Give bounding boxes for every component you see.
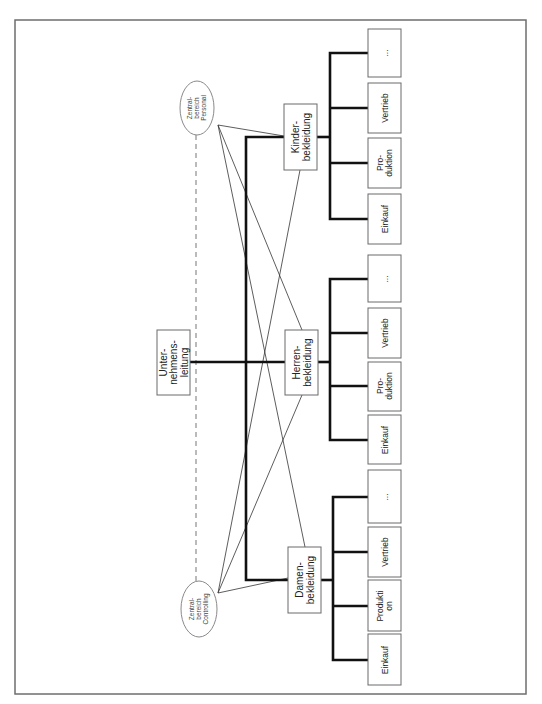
node-zentralbereich-controlling: Zentral- bereich Controlling xyxy=(181,581,217,637)
herren-function-produktion: Pro- duktion xyxy=(368,362,401,411)
node-kinderbekleidung: Kinder- bekleidung xyxy=(284,104,317,170)
damen-function-more: ... xyxy=(368,470,401,523)
svg-text:Kinder-: Kinder- xyxy=(290,121,301,153)
main-hierarchy-lines xyxy=(190,53,368,660)
svg-text:Zentral-: Zentral- xyxy=(188,598,195,620)
kinder-function-einkauf: Einkauf xyxy=(368,194,401,244)
damen-function-vertrieb: Vertrieb xyxy=(368,527,401,577)
svg-text:...: ... xyxy=(380,275,390,282)
kinder-function-vertrieb: Vertrieb xyxy=(368,83,401,133)
root-label-1: Unter- xyxy=(158,349,169,377)
svg-text:Zentral-: Zentral- xyxy=(186,97,193,119)
herren-function-more: ... xyxy=(368,255,401,302)
svg-text:Vertrieb: Vertrieb xyxy=(380,537,390,567)
kinder-function-produktion: Pro- duktion xyxy=(368,138,401,188)
damen-function-einkauf: Einkauf xyxy=(368,634,401,685)
node-damenbekleidung: Damen- bekleidung xyxy=(288,547,321,613)
svg-text:duktion: duktion xyxy=(384,372,394,400)
org-chart-diagram: Unter- nehmens- leitung Zentral- bereich… xyxy=(0,0,542,704)
svg-text:bekleidung: bekleidung xyxy=(301,113,312,161)
svg-text:Herren-: Herren- xyxy=(291,346,302,380)
herren-function-vertrieb: Vertrieb xyxy=(368,308,401,358)
svg-text:bekleidung: bekleidung xyxy=(305,556,316,604)
svg-text:Personal: Personal xyxy=(200,95,207,121)
svg-text:bereich: bereich xyxy=(195,598,202,620)
root-label-3: leitung xyxy=(179,348,190,377)
svg-text:Controlling: Controlling xyxy=(202,593,210,624)
svg-text:Damen-: Damen- xyxy=(294,562,305,598)
svg-text:Einkauf: Einkauf xyxy=(380,204,390,233)
svg-text:bekleidung: bekleidung xyxy=(302,338,313,386)
svg-text:bereich: bereich xyxy=(193,97,200,119)
svg-text:Einkauf: Einkauf xyxy=(380,645,390,674)
node-zentralbereich-personal: Zentral- bereich Personal xyxy=(180,81,214,135)
node-herrenbekleidung: Herren- bekleidung xyxy=(285,330,318,395)
root-label-2: nehmens- xyxy=(168,340,179,384)
page-frame xyxy=(15,20,526,694)
svg-text:...: ... xyxy=(380,49,390,56)
damen-function-produktion: Produkti on xyxy=(368,580,401,631)
svg-text:Vertrieb: Vertrieb xyxy=(380,93,390,123)
node-unternehmensleitung: Unter- nehmens- leitung xyxy=(157,330,190,395)
svg-text:Einkauf: Einkauf xyxy=(380,425,390,454)
svg-text:on: on xyxy=(384,601,394,611)
svg-text:duktion: duktion xyxy=(384,149,394,177)
herren-function-einkauf: Einkauf xyxy=(368,415,401,464)
svg-text:...: ... xyxy=(380,493,390,500)
svg-text:Vertrieb: Vertrieb xyxy=(380,318,390,348)
kinder-function-more: ... xyxy=(368,29,401,77)
